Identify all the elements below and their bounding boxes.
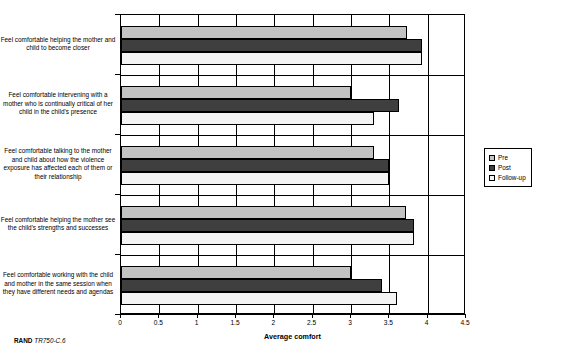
x-tick-label-0: 0 [105, 319, 135, 326]
x-tick-label-1.5: 1.5 [220, 319, 250, 326]
bar-post-cat4 [121, 279, 382, 292]
footer-document-id: TR750-C.6 [34, 337, 65, 344]
legend-swatch-pre-icon [489, 155, 495, 161]
bar-pre-cat4 [121, 266, 351, 279]
bar-post-cat1 [121, 99, 399, 112]
legend-item-pre[interactable]: Pre [489, 153, 526, 162]
category-label-4: Feel comfortable working with the child … [0, 271, 116, 297]
x-tick-3.5 [388, 314, 389, 318]
legend-item-post[interactable]: Post [489, 163, 526, 172]
x-tick-1.5 [235, 314, 236, 318]
bar-post-cat2 [121, 159, 389, 172]
x-tick-label-1: 1 [182, 319, 212, 326]
x-tick-0 [120, 314, 121, 318]
legend-label-followup: Follow-up [498, 174, 526, 181]
x-tick-4.5 [465, 314, 466, 318]
x-tick-label-4: 4 [412, 319, 442, 326]
chart-legend: Pre Post Follow-up [484, 148, 532, 187]
category-label-3: Feel comfortable helping the mother see … [0, 216, 116, 233]
x-tick-label-4.5: 4.5 [450, 319, 480, 326]
bar-followup-cat2 [121, 172, 389, 185]
bar-followup-cat1 [121, 112, 374, 125]
bars-container [121, 15, 464, 313]
footer-brand: RAND [14, 337, 32, 344]
category-label-1: Feel comfortable intervening with a moth… [0, 91, 116, 117]
bar-followup-cat0 [121, 52, 422, 65]
x-tick-label-3.5: 3.5 [373, 319, 403, 326]
bar-pre-cat2 [121, 146, 374, 159]
legend-item-followup[interactable]: Follow-up [489, 173, 526, 182]
chart-figure: Feel comfortable helping the mother and … [0, 0, 563, 359]
x-tick-label-3: 3 [335, 319, 365, 326]
legend-swatch-post-icon [489, 165, 495, 171]
x-tick-1 [197, 314, 198, 318]
bar-followup-cat3 [121, 232, 414, 245]
x-axis-title: Average comfort [120, 332, 465, 341]
category-label-2: Feel comfortable talking to the mother a… [0, 147, 116, 181]
x-tick-0.5 [158, 314, 159, 318]
bar-post-cat0 [121, 39, 422, 52]
category-label-0: Feel comfortable helping the mother and … [0, 36, 116, 53]
x-tick-label-2.5: 2.5 [297, 319, 327, 326]
x-tick-2.5 [312, 314, 313, 318]
bar-pre-cat1 [121, 86, 351, 99]
legend-label-pre: Pre [498, 154, 508, 161]
bar-pre-cat0 [121, 26, 407, 39]
legend-swatch-followup-icon [489, 175, 495, 181]
x-axis-line [120, 314, 465, 315]
x-tick-label-0.5: 0.5 [143, 319, 173, 326]
x-tick-4 [427, 314, 428, 318]
bar-pre-cat3 [121, 206, 406, 219]
bar-followup-cat4 [121, 292, 397, 305]
category-axis-labels: Feel comfortable helping the mother and … [0, 14, 118, 314]
figure-footer: RAND TR750-C.6 [14, 337, 66, 344]
legend-label-post: Post [498, 164, 511, 171]
x-tick-2 [273, 314, 274, 318]
plot-area [120, 14, 465, 314]
bar-post-cat3 [121, 219, 414, 232]
x-tick-label-2: 2 [258, 319, 288, 326]
x-tick-3 [350, 314, 351, 318]
